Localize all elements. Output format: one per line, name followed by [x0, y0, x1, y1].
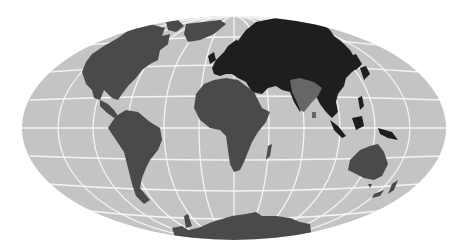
sri-lanka — [312, 112, 316, 118]
world-map — [0, 0, 468, 250]
